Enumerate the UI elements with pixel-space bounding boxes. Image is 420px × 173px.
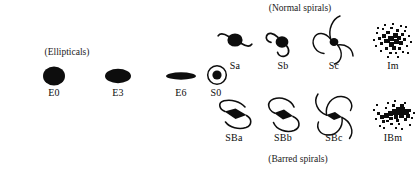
- spiral-open-icon: [309, 14, 359, 66]
- galaxy-label-im: Im: [375, 60, 411, 71]
- galaxy-label-e0: E0: [34, 87, 74, 98]
- galaxy-label-sbb: SBb: [263, 132, 303, 143]
- barred-spiral-tight-icon: [215, 98, 257, 132]
- group-label-normal-spirals: (Normal spirals): [240, 3, 360, 14]
- galaxy-label-sb: Sb: [265, 60, 301, 71]
- galaxy-label-sba: SBa: [214, 132, 254, 143]
- galaxy-label-sc: Sc: [316, 60, 352, 71]
- hubble-tuning-fork-diagram: (Normal spirals) (Ellipticals) E0 E3 E6 …: [0, 0, 420, 173]
- irregular-barred-cloud-icon: [370, 98, 416, 134]
- spiral-tight-icon: [215, 26, 255, 56]
- spiral-medium-icon: [262, 24, 300, 60]
- irregular-cloud-icon: [370, 20, 414, 60]
- group-label-ellipticals: (Ellipticals): [12, 47, 122, 58]
- barred-spiral-medium-icon: [262, 96, 306, 134]
- filled-oval-ellipse-icon: [100, 65, 136, 87]
- galaxy-label-sa: Sa: [217, 60, 253, 71]
- filled-round-ellipse-icon: [38, 64, 70, 88]
- lenticular-ring-icon: [164, 62, 194, 90]
- galaxy-label-e3: E3: [98, 87, 138, 98]
- galaxy-label-sbc: SBc: [314, 132, 354, 143]
- galaxy-label-s0: S0: [198, 87, 234, 98]
- group-label-barred-spirals: (Barred spirals): [238, 154, 358, 165]
- galaxy-label-ibm: IBm: [373, 132, 413, 143]
